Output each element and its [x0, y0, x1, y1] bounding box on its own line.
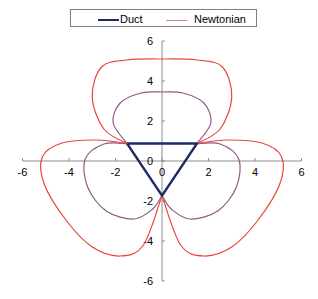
x-tick-label: -2	[111, 166, 121, 178]
x-tick-label: -6	[18, 166, 28, 178]
x-tick-label: 6	[298, 166, 304, 178]
y-tick-label: -2	[143, 195, 153, 207]
plot-area: -6-4-202466420-2-4-6	[0, 0, 318, 299]
x-tick-label: 2	[205, 166, 211, 178]
y-tick-label: 0	[147, 155, 153, 167]
y-tick-label: 2	[147, 115, 153, 127]
x-tick-label: 0	[159, 166, 165, 178]
x-tick-label: 4	[252, 166, 258, 178]
x-tick-label: -4	[64, 166, 74, 178]
y-tick-label: 6	[147, 35, 153, 47]
y-tick-label: -6	[143, 275, 153, 287]
axes: -6-4-202466420-2-4-6	[18, 35, 305, 287]
y-tick-label: 4	[147, 75, 153, 87]
